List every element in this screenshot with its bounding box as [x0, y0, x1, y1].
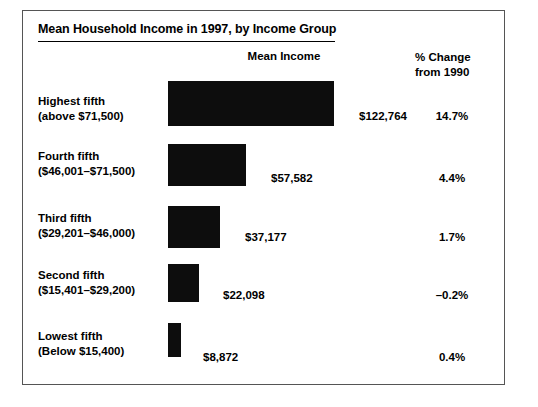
row-category-label: Third fifth($29,201–$46,000)	[38, 211, 135, 241]
percent-change-value: 4.4%	[415, 172, 489, 184]
bar-value-label: $122,764	[359, 110, 407, 122]
row-category-label: Second fifth($15,401–$29,200)	[38, 268, 135, 298]
bar-value-label: $8,872	[203, 351, 238, 363]
column-header-percent-change-line1: % Change	[415, 50, 499, 65]
row-category-label-line1: Highest fifth	[38, 94, 124, 109]
row-category-label-line2: (Below $15,400)	[38, 344, 124, 359]
column-header-percent-change-line2: from 1990	[415, 65, 499, 80]
percent-change-value: –0.2%	[415, 289, 489, 301]
row-category-label-line1: Third fifth	[38, 211, 135, 226]
bar-value-label: $22,098	[223, 289, 265, 301]
row-category-label: Lowest fifth(Below $15,400)	[38, 329, 124, 359]
bar	[168, 81, 334, 126]
bar	[168, 144, 246, 186]
bar-value-label: $57,582	[271, 172, 313, 184]
percent-change-value: 14.7%	[415, 110, 489, 122]
row-category-label: Fourth fifth($46,001–$71,500)	[38, 149, 135, 179]
bar	[168, 323, 181, 357]
column-header-percent-change: % Change from 1990	[415, 50, 499, 80]
bar-value-label: $37,177	[245, 231, 287, 243]
percent-change-value: 1.7%	[415, 231, 489, 243]
percent-change-value: 0.4%	[415, 351, 489, 363]
chart-title: Mean Household Income in 1997, by Income…	[38, 22, 336, 36]
bar	[168, 264, 199, 302]
row-category-label-line2: ($15,401–$29,200)	[38, 283, 135, 298]
row-category-label-line1: Second fifth	[38, 268, 135, 283]
title-underline-rule	[38, 41, 335, 42]
row-category-label-line1: Lowest fifth	[38, 329, 124, 344]
row-category-label-line2: ($46,001–$71,500)	[38, 164, 135, 179]
chart-figure: Mean Household Income in 1997, by Income…	[22, 10, 505, 385]
row-category-label-line2: ($29,201–$46,000)	[38, 226, 135, 241]
row-category-label-line1: Fourth fifth	[38, 149, 135, 164]
row-category-label-line2: (above $71,500)	[38, 109, 124, 124]
bar	[168, 206, 220, 248]
column-header-mean-income: Mean Income	[189, 50, 379, 62]
row-category-label: Highest fifth(above $71,500)	[38, 94, 124, 124]
